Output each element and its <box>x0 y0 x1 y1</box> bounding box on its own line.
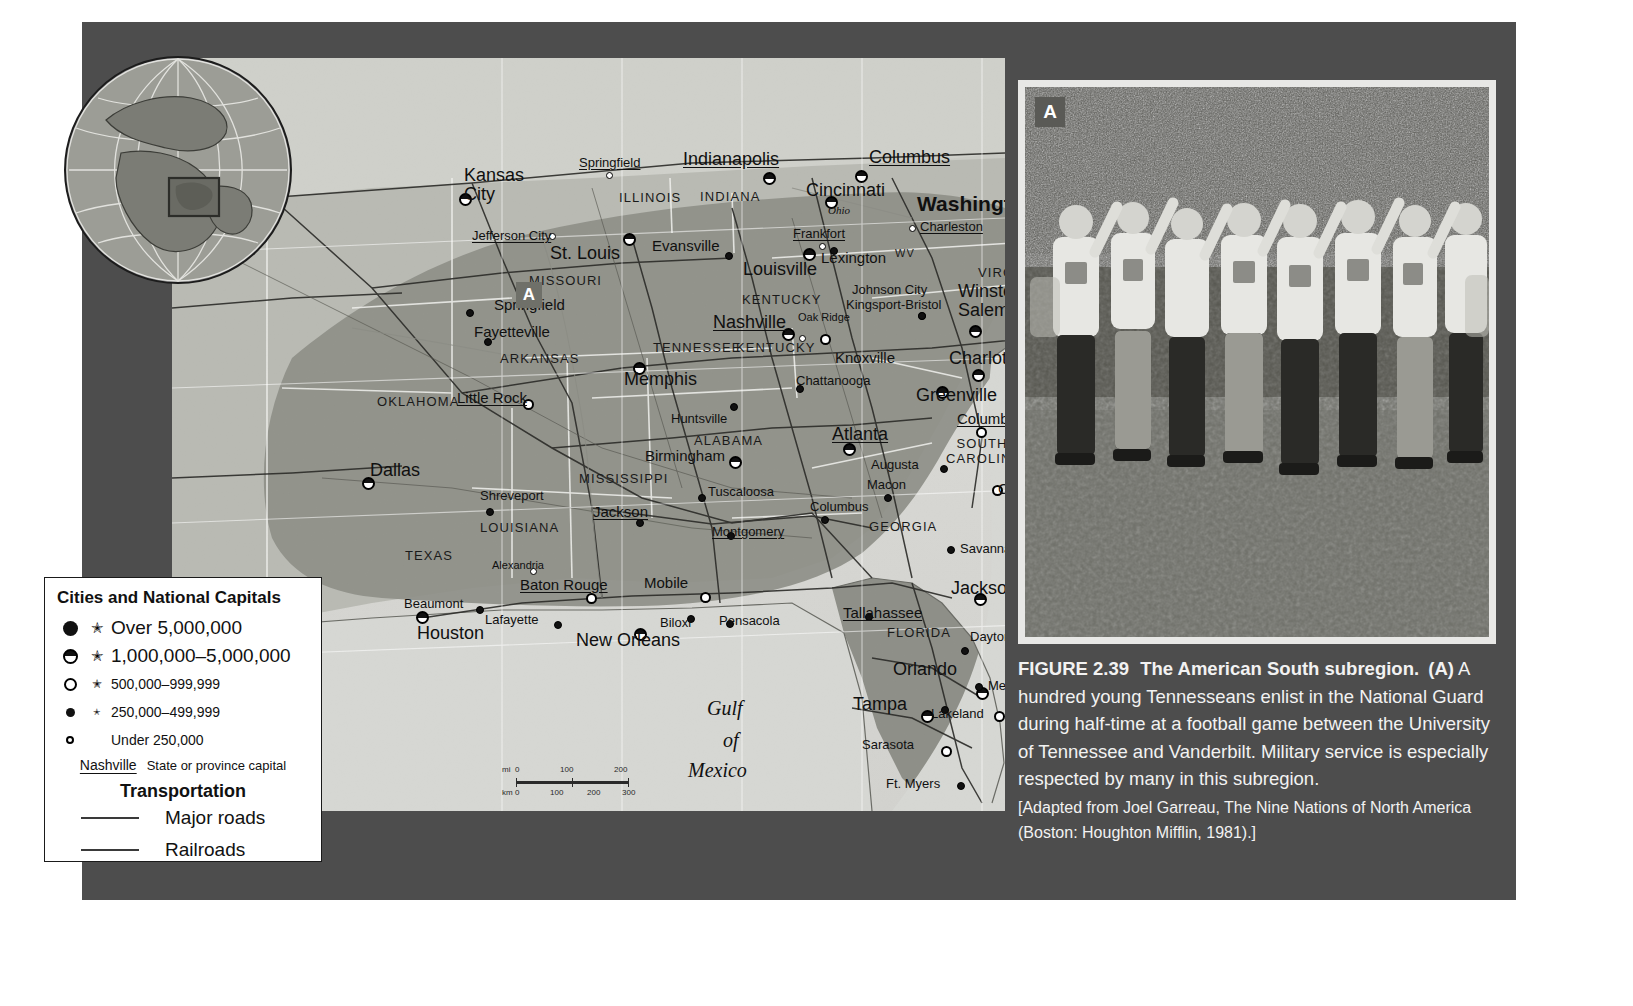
legend-row-state-capital: Nashville State or province capital <box>57 757 309 773</box>
city-marker-sarasota[interactable] <box>941 746 952 757</box>
globe-locator-inset <box>64 56 292 284</box>
capital-star-250k-icon: ✭ <box>83 707 111 717</box>
region-label-mississippi: MISSISSIPPI <box>579 472 668 485</box>
legend-transportation-title: Transportation <box>57 781 309 802</box>
city-marker-beaumont[interactable] <box>476 606 484 614</box>
legend-label-500k-999k: 500,000–999,999 <box>111 676 220 692</box>
city-marker-jackson[interactable] <box>636 519 644 527</box>
map-photo-reference-marker: A <box>516 282 542 308</box>
city-marker-daytona-beach[interactable] <box>961 647 969 655</box>
city-marker-baton-rouge[interactable] <box>586 593 597 604</box>
legend-capital-label: State or province capital <box>147 758 286 773</box>
legend-row-250k-499k: ✭ 250,000–499,999 <box>57 698 309 726</box>
city-label-houston: Houston <box>417 624 484 642</box>
city-marker-springfield[interactable] <box>606 172 613 179</box>
city-label-greenville: Greenville <box>916 386 997 404</box>
city-label-mobile: Mobile <box>644 575 688 590</box>
legend-capital-example: Nashville <box>80 757 137 773</box>
city-marker-tuscaloosa[interactable] <box>698 494 706 502</box>
scale-mi-tick-200: 200 <box>614 765 627 774</box>
legend-label-major-roads: Major roads <box>165 807 265 829</box>
city-label-biloxi: Biloxi <box>660 616 691 629</box>
scale-km-tick-0: 0 <box>515 788 519 797</box>
city-label-alexandria: Alexandria <box>492 560 544 571</box>
city-label-jefferson-city: Jefferson City <box>472 229 551 242</box>
legend-row-railroads: Railroads <box>57 834 309 866</box>
globe-graphic <box>66 58 290 282</box>
city-marker-huntsville[interactable] <box>730 403 738 411</box>
city-marker-st-louis[interactable] <box>623 233 636 246</box>
photo-panel-label: A <box>1035 97 1065 127</box>
city-label-indianapolis: Indianapolis <box>683 150 779 168</box>
legend-title: Cities and National Capitals <box>57 588 309 608</box>
legend-row-1m-5m: ✭ 1,000,000–5,000,000 <box>57 642 309 670</box>
city-marker-springfield[interactable] <box>466 309 474 317</box>
city-label-charleston: Charleston <box>920 220 983 233</box>
city-label-oak-ridge: Oak Ridge <box>798 312 850 323</box>
city-label-lafayette: Lafayette <box>485 613 539 626</box>
city-label-daytona-beach: Daytona Beach <box>970 630 1005 643</box>
region-label-alabama: ALABAMA <box>694 434 763 447</box>
legend-row-under-250k: Under 250,000 <box>57 726 309 754</box>
railroad-line-icon <box>81 849 139 851</box>
city-marker-charlotte[interactable] <box>972 369 985 382</box>
city-marker-ft-pierce[interactable] <box>994 711 1005 722</box>
legend-row-major-roads: Major roads <box>57 802 309 834</box>
city-label-st-louis: St. Louis <box>550 244 620 262</box>
label-gulf-3: Mexico <box>688 760 747 780</box>
city-label-lakeland: Lakeland <box>931 707 984 720</box>
region-label-kentucky: KENTUCKY <box>742 293 822 306</box>
city-label-columbia: Columbia <box>957 411 1005 426</box>
city-marker-savannah[interactable] <box>947 546 955 554</box>
legend-label-over-5m: Over 5,000,000 <box>111 617 242 639</box>
photo-image: A <box>1025 87 1489 637</box>
city-label-jackson: Jackson <box>593 504 648 519</box>
region-label-wv: WV <box>895 248 915 259</box>
figure-title: The American South subregion. <box>1140 658 1419 679</box>
city-marker-evansville[interactable] <box>725 252 733 260</box>
city-label-frankfort: Frankfort <box>793 227 845 240</box>
city-label-evansville: Evansville <box>652 238 720 253</box>
region-label-indiana: INDIANA <box>700 190 760 203</box>
dot-250k-499k-icon <box>57 708 83 717</box>
city-marker-winston-salem[interactable] <box>969 325 982 338</box>
figure-source-note: [Adapted from Joel Garreau, The Nine Nat… <box>1018 795 1504 845</box>
scale-km-tick-300: 300 <box>622 788 635 797</box>
city-marker-macon[interactable] <box>884 494 892 502</box>
city-marker-shreveport[interactable] <box>486 508 494 516</box>
city-marker-kingsport-bristol[interactable] <box>918 312 926 320</box>
city-label-memphis: Memphis <box>624 370 697 388</box>
scale-km-tick-200: 200 <box>587 788 600 797</box>
map-legend: Cities and National Capitals ✭ Over 5,00… <box>44 577 322 862</box>
city-marker-houston[interactable] <box>416 611 429 624</box>
city-label-shreveport: Shreveport <box>480 489 544 502</box>
city-label-dallas: Dallas <box>370 461 420 479</box>
city-label-tampa: Tampa <box>853 695 907 713</box>
city-marker-birmingham[interactable] <box>729 456 742 469</box>
city-label-fayetteville: Fayetteville <box>474 324 550 339</box>
city-marker-knoxville[interactable] <box>820 334 831 345</box>
city-label-ft-myers: Ft. Myers <box>886 777 940 790</box>
city-marker-indianapolis[interactable] <box>763 172 776 185</box>
city-marker-melbourne[interactable] <box>975 683 983 691</box>
region-label-arkansas: ARKANSAS <box>500 352 580 365</box>
city-marker-lafayette[interactable] <box>554 621 562 629</box>
city-marker-atlanta[interactable] <box>843 443 856 456</box>
city-label-baton-rouge: Baton Rouge <box>520 577 608 592</box>
city-label-beaumont: Beaumont <box>404 597 463 610</box>
region-label-virginia: VIRGINIA <box>978 266 1005 279</box>
city-marker-charleston[interactable] <box>909 225 916 232</box>
major-road-line-icon <box>81 817 139 819</box>
region-label-kentucky: KENTUCKY <box>736 341 816 354</box>
dot-over-5m-icon <box>57 621 83 636</box>
city-label-birmingham: Birmingham <box>645 448 725 463</box>
city-marker-columbus[interactable] <box>821 516 829 524</box>
city-label-charleston: Charleston <box>998 481 1005 496</box>
capital-star-1m-5m-icon: ✭ <box>83 647 111 665</box>
region-label-louisiana: LOUISIANA <box>480 521 559 534</box>
city-label-charlotte: Charlotte <box>949 349 1005 367</box>
city-marker-ft-myers[interactable] <box>957 782 965 790</box>
city-label-louisville: Louisville <box>743 260 817 278</box>
city-marker-mobile[interactable] <box>700 592 711 603</box>
region-label-tennessee: TENNESSEE <box>653 341 742 354</box>
